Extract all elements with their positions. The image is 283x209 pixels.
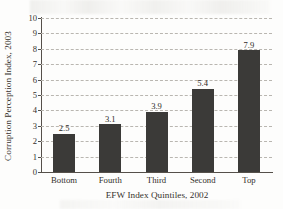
bar-value-label: 3.9 <box>151 102 162 111</box>
x-axis-category-label: Third <box>147 176 166 185</box>
y-axis-tick-label: 6 <box>33 75 37 84</box>
bar: 3.1 <box>99 124 121 172</box>
y-axis-tick-label: 7 <box>33 60 37 69</box>
y-axis-tick-mark <box>38 33 41 34</box>
x-axis-category-label: Fourth <box>99 176 122 185</box>
y-axis-tick-mark <box>38 141 41 142</box>
x-axis-title: EFW Index Quintiles, 2002 <box>41 191 273 200</box>
y-axis-tick-mark <box>38 126 41 127</box>
y-axis-tick-mark <box>38 18 41 19</box>
scan-bleed-artifact-bottom <box>60 200 240 209</box>
bar: 5.4 <box>192 89 214 172</box>
y-axis-tick-label: 2 <box>33 137 37 146</box>
scan-bleed-artifact-top <box>30 0 270 14</box>
y-axis-title: Corruption Perception Index, 2003 <box>2 16 15 176</box>
bar-value-label: 5.4 <box>197 79 208 88</box>
chart-figure: Corruption Perception Index, 2003 012345… <box>0 0 283 209</box>
y-axis-tick-mark <box>38 157 41 158</box>
bar: 2.5 <box>53 134 75 173</box>
y-axis-tick-label: 9 <box>33 29 37 38</box>
bar-value-label: 2.5 <box>59 124 70 133</box>
y-axis-tick-label: 0 <box>33 168 37 177</box>
plot-area: 012345678910 2.53.13.95.47.9 <box>41 18 272 172</box>
y-axis-tick-label: 8 <box>33 45 37 54</box>
x-axis-line <box>41 172 273 173</box>
gridline <box>41 33 272 34</box>
bar: 7.9 <box>238 50 260 172</box>
gridline <box>41 18 272 19</box>
y-axis-tick-label: 1 <box>33 152 37 161</box>
y-axis-tick-mark <box>38 64 41 65</box>
bar-value-label: 3.1 <box>105 115 116 124</box>
y-axis-tick-label: 3 <box>33 122 37 131</box>
y-axis-tick-label: 5 <box>33 91 37 100</box>
y-axis-tick-label: 4 <box>33 106 37 115</box>
y-axis-tick-mark <box>38 110 41 111</box>
y-axis-tick-mark <box>38 172 41 173</box>
x-axis-category-label: Bottom <box>51 176 77 185</box>
x-axis-category-label: Top <box>242 176 255 185</box>
x-axis-category-label: Second <box>190 176 216 185</box>
y-axis-tick-mark <box>38 49 41 50</box>
y-axis-tick-mark <box>38 80 41 81</box>
y-axis-tick-mark <box>38 95 41 96</box>
bar-value-label: 7.9 <box>244 41 255 50</box>
y-axis-tick-label: 10 <box>28 14 37 23</box>
bar: 3.9 <box>146 112 168 172</box>
